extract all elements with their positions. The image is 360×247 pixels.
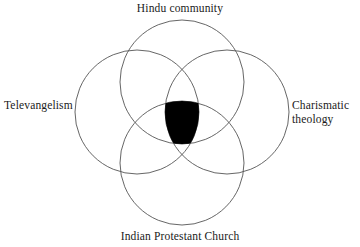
venn-label-televangelism: Televangelism bbox=[4, 99, 76, 113]
venn-label-charismatic-theology: Charismatic theology bbox=[292, 99, 360, 126]
venn-diagram-figure: Hindu community Televangelism Charismati… bbox=[0, 0, 360, 247]
venn-label-hindu-community: Hindu community bbox=[0, 2, 360, 16]
venn-label-indian-protestant-church: Indian Protestant Church bbox=[0, 230, 360, 244]
